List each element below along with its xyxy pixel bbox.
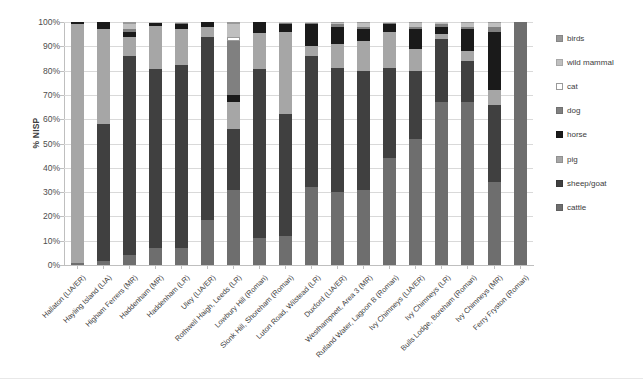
bar-segment-cattle[interactable] <box>201 220 214 265</box>
stacked-bar[interactable] <box>488 22 501 265</box>
bar-segment-sheep-goat[interactable] <box>149 69 162 248</box>
legend-label: sheep/goat <box>567 179 607 188</box>
stacked-bar[interactable] <box>514 22 527 265</box>
bar-segment-wild mammal[interactable] <box>227 24 240 36</box>
stacked-bar[interactable] <box>357 22 370 265</box>
bar-segment-horse[interactable] <box>305 24 318 46</box>
bar-segment-sheep-goat[interactable] <box>461 61 474 102</box>
bar-segment-horse[interactable] <box>357 29 370 41</box>
stacked-bar[interactable] <box>149 22 162 265</box>
bar-segment-sheep-goat[interactable] <box>331 68 344 192</box>
bar-slot <box>377 22 403 265</box>
stacked-bar[interactable] <box>123 22 136 265</box>
bar-segment-pig[interactable] <box>71 24 84 262</box>
bar-segment-dog[interactable] <box>227 41 240 94</box>
bar-slot <box>351 22 377 265</box>
chart-legend: birdswild mammalcatdoghorsepigsheep/goat… <box>556 26 642 220</box>
bar-segment-cattle[interactable] <box>253 238 266 265</box>
stacked-bar[interactable] <box>71 22 84 265</box>
stacked-bar[interactable] <box>435 22 448 265</box>
stacked-bar[interactable] <box>383 22 396 265</box>
bar-segment-horse[interactable] <box>488 32 501 90</box>
bar-segment-sheep-goat[interactable] <box>175 65 188 248</box>
bar-segment-sheep-goat[interactable] <box>409 71 422 139</box>
bar-segment-cattle[interactable] <box>383 158 396 265</box>
bar-slot <box>299 22 325 265</box>
legend-item-wild-mammal[interactable]: wild mammal <box>556 50 642 74</box>
bar-segment-pig[interactable] <box>201 27 214 37</box>
stacked-bar[interactable] <box>175 22 188 265</box>
bar-segment-sheep-goat[interactable] <box>201 37 214 220</box>
bar-segment-pig[interactable] <box>253 33 266 69</box>
bar-segment-cattle[interactable] <box>175 248 188 265</box>
bar-segment-sheep-goat[interactable] <box>383 68 396 158</box>
bar-slot <box>325 22 351 265</box>
bar-segment-horse[interactable] <box>279 24 292 31</box>
y-axis-tick-label: 90% <box>43 41 60 51</box>
bar-segment-sheep-goat[interactable] <box>97 124 110 261</box>
bar-segment-horse[interactable] <box>383 24 396 31</box>
stacked-bar[interactable] <box>409 22 422 265</box>
bar-segment-cattle[interactable] <box>514 22 527 265</box>
stacked-bar[interactable] <box>201 22 214 265</box>
legend-label: cattle <box>567 203 586 212</box>
bar-segment-pig[interactable] <box>305 46 318 56</box>
bar-segment-pig[interactable] <box>97 29 110 124</box>
bar-segment-sheep-goat[interactable] <box>305 56 318 187</box>
bar-segment-horse[interactable] <box>435 27 448 34</box>
bar-segment-cattle[interactable] <box>409 139 422 265</box>
bar-segment-cattle[interactable] <box>279 236 292 265</box>
bar-segment-cattle[interactable] <box>435 102 448 265</box>
bar-segment-cattle[interactable] <box>305 187 318 265</box>
bar-segment-sheep-goat[interactable] <box>488 105 501 183</box>
legend-item-dog[interactable]: dog <box>556 99 642 123</box>
legend-item-cat[interactable]: cat <box>556 74 642 98</box>
bar-segment-pig[interactable] <box>488 90 501 105</box>
stacked-bar[interactable] <box>305 22 318 265</box>
bar-segment-sheep-goat[interactable] <box>357 71 370 190</box>
bar-segment-pig[interactable] <box>383 32 396 68</box>
bar-segment-sheep-goat[interactable] <box>253 69 266 238</box>
bar-segment-pig[interactable] <box>409 49 422 71</box>
bar-segment-sheep-goat[interactable] <box>227 129 240 190</box>
bar-segment-horse[interactable] <box>227 95 240 102</box>
bar-segment-horse[interactable] <box>331 27 344 44</box>
stacked-bar[interactable] <box>253 22 266 265</box>
bar-segment-cattle[interactable] <box>123 255 136 265</box>
bar-segment-pig[interactable] <box>227 102 240 129</box>
page-edge-artifact <box>0 378 643 379</box>
legend-item-pig[interactable]: pig <box>556 147 642 171</box>
stacked-bar[interactable] <box>461 22 474 265</box>
legend-swatch-icon <box>556 107 563 114</box>
bar-segment-pig[interactable] <box>357 41 370 70</box>
legend-item-horse[interactable]: horse <box>556 123 642 147</box>
bar-segment-cattle[interactable] <box>149 248 162 265</box>
stacked-bar[interactable] <box>97 22 110 265</box>
bar-segment-horse[interactable] <box>409 29 422 48</box>
bar-segment-pig[interactable] <box>149 26 162 70</box>
bar-segment-sheep-goat[interactable] <box>279 114 292 236</box>
legend-label: horse <box>567 130 587 139</box>
legend-item-birds[interactable]: birds <box>556 26 642 50</box>
bar-segment-pig[interactable] <box>175 29 188 64</box>
bar-segment-cattle[interactable] <box>488 182 501 265</box>
bar-segment-sheep-goat[interactable] <box>123 56 136 255</box>
bar-segment-sheep-goat[interactable] <box>435 39 448 102</box>
stacked-bar[interactable] <box>227 22 240 265</box>
bar-segment-cattle[interactable] <box>331 192 344 265</box>
bar-segment-pig[interactable] <box>331 44 344 68</box>
legend-item-sheep-goat[interactable]: sheep/goat <box>556 171 642 195</box>
legend-label: wild mammal <box>567 58 614 67</box>
legend-item-cattle[interactable]: cattle <box>556 195 642 219</box>
bar-segment-pig[interactable] <box>123 37 136 56</box>
bar-segment-horse[interactable] <box>97 22 110 29</box>
stacked-bar[interactable] <box>331 22 344 265</box>
bar-segment-pig[interactable] <box>461 51 474 61</box>
bar-segment-cattle[interactable] <box>461 102 474 265</box>
bar-segment-cattle[interactable] <box>227 190 240 265</box>
bar-segment-horse[interactable] <box>461 29 474 51</box>
bar-segment-cattle[interactable] <box>357 190 370 265</box>
stacked-bar[interactable] <box>279 22 292 265</box>
bar-segment-pig[interactable] <box>279 32 292 115</box>
bar-segment-horse[interactable] <box>253 22 266 33</box>
